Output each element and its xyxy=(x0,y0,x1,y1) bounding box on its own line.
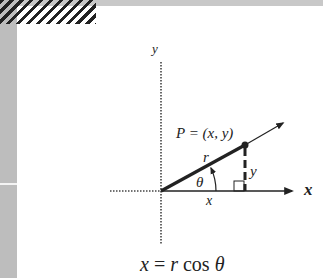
formula-r: r xyxy=(170,253,178,275)
opposite-label: y xyxy=(250,164,257,179)
y-axis-label: y xyxy=(152,42,158,55)
point-p xyxy=(242,142,249,149)
formula-equals: = xyxy=(149,253,170,275)
x-axis-label: x xyxy=(304,181,313,198)
formula-cos: cos xyxy=(178,253,215,275)
ray-extension xyxy=(245,123,283,145)
right-angle-marker xyxy=(234,181,244,191)
polar-coordinate-diagram xyxy=(0,0,323,278)
formula-lhs: x xyxy=(140,253,149,275)
point-p-label: P = (x, y) xyxy=(176,126,233,141)
formula-x-equals-r-cos-theta: x = r cos θ xyxy=(140,253,224,276)
angle-theta-label: θ xyxy=(196,175,203,190)
adjacent-label: x xyxy=(206,194,212,208)
radius-label: r xyxy=(203,150,209,165)
formula-theta: θ xyxy=(215,253,225,275)
angle-arc xyxy=(211,168,216,191)
